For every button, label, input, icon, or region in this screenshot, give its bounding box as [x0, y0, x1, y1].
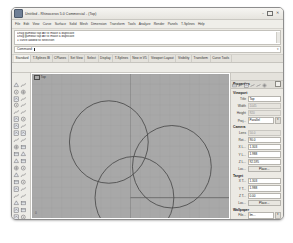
- property-value[interactable]: 1.303: [248, 178, 282, 184]
- extrude-icon[interactable]: [183, 65, 188, 70]
- polygon-icon[interactable]: [13, 116, 20, 122]
- text-icon[interactable]: [13, 199, 20, 205]
- surface-icon[interactable]: [157, 65, 162, 70]
- solid-cone-icon[interactable]: [20, 144, 27, 150]
- boolean-difference-icon[interactable]: [196, 65, 201, 70]
- menu-item-dimension[interactable]: Dimension: [91, 22, 107, 26]
- property-value[interactable]: Top: [248, 96, 282, 102]
- point-icon[interactable]: [13, 81, 20, 87]
- surface-plane-icon[interactable]: [13, 123, 20, 129]
- chevron-down-icon[interactable]: ▾: [275, 117, 281, 123]
- fillet-icon[interactable]: [20, 178, 27, 184]
- menu-item-help[interactable]: Help: [198, 22, 205, 26]
- tab-tsplines[interactable]: T-Splines: [113, 55, 130, 62]
- dimension-icon[interactable]: [20, 192, 27, 198]
- panel-collapse-button[interactable]: [275, 81, 281, 87]
- fillet-icon[interactable]: [202, 65, 207, 70]
- menu-item-mesh[interactable]: Mesh: [80, 22, 88, 26]
- ellipse-icon[interactable]: [13, 109, 20, 115]
- menu-item-render[interactable]: Render: [154, 22, 165, 26]
- zoom-window-icon[interactable]: [85, 65, 90, 70]
- command-prompt[interactable]: Command: ▾: [14, 46, 281, 53]
- tab-tsplines-ib[interactable]: T-Splines IB: [31, 55, 52, 62]
- rectangle-icon[interactable]: [144, 65, 149, 70]
- menu-item-edit[interactable]: Edit: [24, 22, 30, 26]
- property-value[interactable]: Place...: [248, 200, 282, 206]
- line-icon[interactable]: [105, 65, 110, 70]
- menu-item-tools[interactable]: Tools: [128, 22, 136, 26]
- join-icon[interactable]: [234, 65, 239, 70]
- analyze-icon[interactable]: [13, 192, 20, 198]
- ellipse-icon[interactable]: [137, 65, 142, 70]
- viewport-canvas[interactable]: [32, 74, 229, 218]
- polyline-icon[interactable]: [111, 65, 116, 70]
- solid-box-icon[interactable]: [13, 137, 20, 143]
- circle-icon[interactable]: [20, 102, 27, 108]
- render-tab-icon[interactable]: [250, 74, 255, 79]
- boolean-icon[interactable]: [20, 172, 27, 178]
- save-icon[interactable]: [27, 65, 32, 70]
- osnap-icon[interactable]: [260, 65, 265, 70]
- tab-new-in-v5[interactable]: New in V5: [131, 55, 150, 62]
- tab-standard[interactable]: Standard: [14, 55, 31, 62]
- render-icon[interactable]: [267, 65, 272, 70]
- viewport-label[interactable]: Top: [34, 75, 46, 81]
- copy-icon[interactable]: [46, 65, 51, 70]
- delete-icon[interactable]: [72, 65, 77, 70]
- tab-curve-tools[interactable]: Curve Tools: [211, 55, 232, 62]
- pan-icon[interactable]: [92, 65, 97, 70]
- properties-icon[interactable]: [254, 65, 259, 70]
- tab-display[interactable]: Display: [99, 55, 114, 62]
- viewport-menu-icon[interactable]: [34, 75, 40, 81]
- menu-item-panels[interactable]: Panels: [168, 22, 178, 26]
- tab-transform[interactable]: Transform: [192, 55, 211, 62]
- property-value[interactable]: 0.00: [248, 193, 282, 199]
- viewport-top[interactable]: Top 0: [32, 74, 229, 218]
- array-icon[interactable]: [13, 172, 20, 178]
- split-icon[interactable]: [228, 65, 233, 70]
- offset-icon[interactable]: [215, 65, 220, 70]
- mesh-tools-icon[interactable]: [20, 151, 27, 157]
- menu-item-transform[interactable]: Transform: [110, 22, 125, 26]
- property-value[interactable]: 92.595: [248, 159, 282, 165]
- curve-tools-icon[interactable]: [20, 116, 27, 122]
- surface-sweep-icon[interactable]: [20, 130, 27, 136]
- transform-rotate-icon[interactable]: [20, 158, 27, 164]
- freeform-curve-icon[interactable]: [20, 95, 27, 101]
- hatch-icon[interactable]: [20, 199, 27, 205]
- surface-revolve-icon[interactable]: [13, 130, 20, 136]
- layers-tab-icon[interactable]: [238, 74, 243, 79]
- surface-loft-icon[interactable]: [20, 123, 27, 129]
- property-value[interactable]: Place...: [248, 166, 282, 172]
- polygon-icon[interactable]: [150, 65, 155, 70]
- tab-visibility[interactable]: Visibility: [176, 55, 192, 62]
- help-tab-icon[interactable]: [262, 74, 267, 79]
- light-icon[interactable]: [20, 206, 27, 212]
- polyline-icon[interactable]: [20, 88, 27, 94]
- undo-icon[interactable]: [59, 65, 64, 70]
- tab-viewport-layout[interactable]: Viewport Layout: [149, 55, 176, 62]
- arc-icon[interactable]: [124, 65, 129, 70]
- menu-item-file[interactable]: File: [15, 22, 20, 26]
- property-value[interactable]: Im...: [248, 212, 274, 218]
- zoom-extents-icon[interactable]: [79, 65, 84, 70]
- solid-cylinder-icon[interactable]: [13, 144, 20, 150]
- command-history-scrollbar[interactable]: [276, 32, 280, 44]
- curve-icon[interactable]: [118, 65, 123, 70]
- redo-icon[interactable]: [66, 65, 71, 70]
- grid-snap-icon[interactable]: [280, 65, 283, 70]
- menu-item-analyze[interactable]: Analyze: [139, 22, 151, 26]
- select-icon[interactable]: [13, 74, 20, 80]
- close-button[interactable]: ✕: [276, 12, 279, 16]
- transform-scale-icon[interactable]: [13, 165, 20, 171]
- print-icon[interactable]: [33, 65, 38, 70]
- line-icon[interactable]: [13, 88, 20, 94]
- shade-icon[interactable]: [273, 65, 278, 70]
- tab-cplanes[interactable]: CPlanes: [53, 55, 69, 62]
- layer-icon[interactable]: [13, 206, 20, 212]
- properties-tab-icon[interactable]: [232, 74, 237, 79]
- property-value[interactable]: 1.988: [248, 151, 282, 157]
- property-value[interactable]: 1.303: [248, 144, 282, 150]
- named-views-tab-icon[interactable]: [256, 74, 261, 79]
- display-icon[interactable]: [20, 213, 27, 219]
